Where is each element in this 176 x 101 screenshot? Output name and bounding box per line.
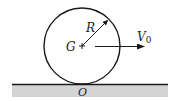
ground-surface (12, 85, 168, 97)
velocity-label-subscript: 0 (146, 35, 152, 45)
contact-point-label: O (78, 86, 87, 99)
velocity-label: V0 (137, 30, 152, 45)
radius-label: R (85, 21, 95, 35)
diagram-canvas: R G V0 O (0, 0, 176, 101)
center-label: G (66, 40, 76, 54)
